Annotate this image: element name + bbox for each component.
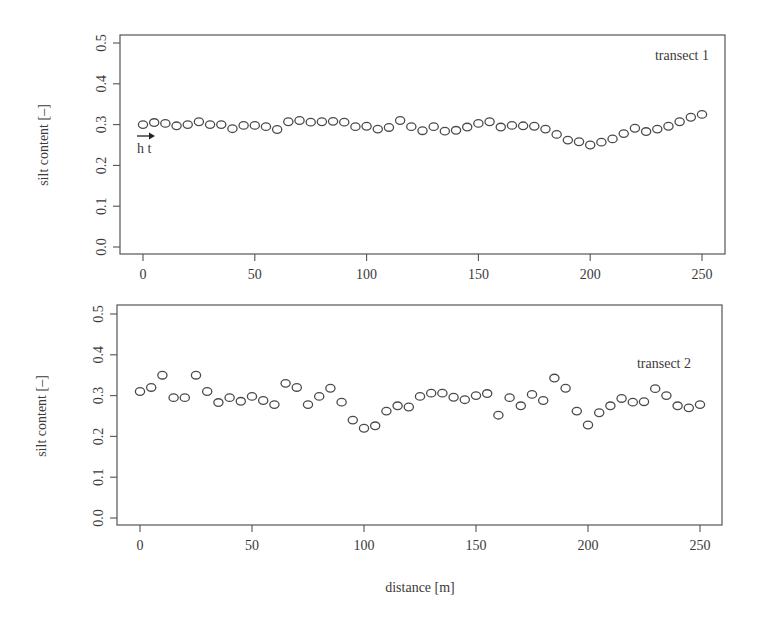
x-tick-label: 200 — [580, 267, 601, 282]
data-point — [664, 122, 673, 130]
data-point — [161, 120, 170, 128]
data-point — [359, 424, 368, 432]
data-point — [138, 121, 147, 129]
data-point — [180, 394, 189, 402]
data-point — [516, 402, 525, 410]
data-point — [597, 138, 606, 146]
y-tick-label: 0.1 — [94, 197, 109, 215]
x-tick-label: 100 — [354, 538, 375, 553]
data-point — [295, 117, 304, 125]
x-axis: 050100150200250 — [137, 525, 711, 553]
x-tick-label: 0 — [140, 267, 147, 282]
data-points — [135, 371, 704, 432]
data-point — [373, 125, 382, 133]
data-point — [247, 393, 256, 401]
data-point — [284, 118, 293, 126]
data-point — [572, 407, 581, 415]
panel-label: transect 1 — [655, 48, 709, 63]
data-point — [574, 138, 583, 146]
data-point — [396, 117, 405, 125]
data-point — [407, 123, 416, 131]
data-point — [630, 124, 639, 132]
figure: 0.00.10.20.30.40.5 050100150200250 silt … — [0, 0, 758, 623]
y-axis-label: silt content [–] — [36, 104, 51, 186]
data-point — [539, 397, 548, 405]
data-point — [463, 123, 472, 131]
x-tick-label: 250 — [690, 538, 711, 553]
data-point — [662, 392, 671, 400]
data-point — [340, 118, 349, 126]
data-point — [150, 119, 159, 127]
y-tick-label: 0.4 — [91, 346, 106, 364]
data-point — [194, 118, 203, 126]
y-axis: 0.00.10.20.30.40.5 — [94, 34, 120, 256]
data-point — [684, 404, 693, 412]
y-tick-label: 0.4 — [94, 75, 109, 93]
data-point — [552, 131, 561, 139]
data-point — [273, 126, 282, 134]
plot-frame — [120, 35, 725, 254]
data-point — [496, 123, 505, 131]
data-point — [337, 398, 346, 406]
data-point — [440, 127, 449, 135]
y-tick-label: 0.0 — [94, 238, 109, 256]
x-tick-label: 50 — [245, 538, 259, 553]
data-point — [642, 128, 651, 136]
data-point — [404, 403, 413, 411]
data-point — [236, 398, 245, 406]
y-tick-label: 0.1 — [91, 468, 106, 486]
data-point — [451, 127, 460, 135]
data-point — [315, 393, 324, 401]
data-point — [225, 394, 234, 402]
data-point — [519, 122, 528, 130]
data-point — [203, 388, 212, 396]
data-point — [673, 402, 682, 410]
data-point — [393, 402, 402, 410]
data-point — [183, 121, 192, 129]
data-point — [415, 393, 424, 401]
data-point — [348, 416, 357, 424]
y-tick-label: 0.0 — [91, 509, 106, 527]
data-point — [270, 401, 279, 409]
data-point — [586, 141, 595, 149]
y-tick-label: 0.5 — [91, 305, 106, 323]
y-tick-label: 0.3 — [91, 387, 106, 405]
data-point — [449, 393, 458, 401]
data-point — [228, 125, 237, 133]
data-point — [505, 394, 514, 402]
data-point — [281, 380, 290, 388]
y-tick-label: 0.2 — [91, 428, 106, 446]
data-point — [507, 122, 516, 130]
data-point — [172, 122, 181, 130]
data-point — [561, 384, 570, 392]
data-point — [326, 384, 335, 392]
y-axis-label: silt content [–] — [34, 375, 49, 457]
data-point — [608, 135, 617, 143]
data-point — [158, 371, 167, 379]
data-point — [474, 120, 483, 128]
data-point — [639, 398, 648, 406]
x-tick-label: 50 — [248, 267, 262, 282]
data-point — [418, 127, 427, 135]
data-point — [205, 121, 214, 129]
data-point — [617, 395, 626, 403]
panel-label: transect 2 — [637, 356, 691, 371]
data-point — [328, 118, 337, 126]
x-tick-label: 250 — [692, 267, 713, 282]
y-tick-label: 0.5 — [94, 34, 109, 52]
data-point — [595, 409, 604, 417]
y-axis: 0.00.10.20.30.40.5 — [91, 305, 117, 527]
data-point — [250, 122, 259, 130]
data-point — [382, 407, 391, 415]
data-point — [239, 122, 248, 130]
x-tick-label: 150 — [466, 538, 487, 553]
x-tick-label: 0 — [137, 538, 144, 553]
data-point — [541, 125, 550, 133]
data-point — [695, 401, 704, 409]
data-point — [651, 385, 660, 393]
data-point — [485, 118, 494, 126]
y-tick-label: 0.2 — [94, 157, 109, 175]
data-point — [135, 388, 144, 396]
data-point — [429, 123, 438, 131]
data-point — [191, 371, 200, 379]
